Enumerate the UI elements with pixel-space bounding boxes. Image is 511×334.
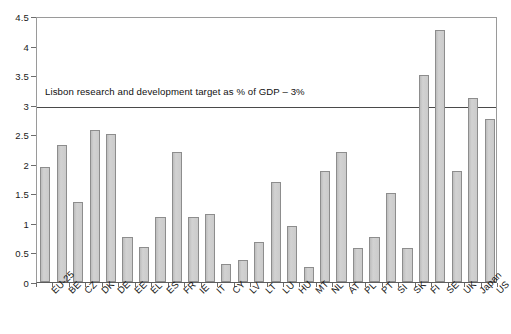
y-axis-tick-label: 4.5 <box>15 12 29 23</box>
y-axis: 00.511.522.533.544.5 <box>0 0 36 300</box>
bar <box>139 247 149 282</box>
y-axis-tick-label: 2 <box>24 159 29 170</box>
y-axis-tick-label: 3 <box>24 100 29 111</box>
bar <box>90 130 100 283</box>
bar <box>40 167 50 282</box>
bar <box>419 75 429 282</box>
bar <box>155 217 165 282</box>
bar <box>369 237 379 282</box>
bar <box>402 248 412 282</box>
bar <box>106 134 116 282</box>
bar <box>435 30 445 282</box>
bar <box>271 182 281 282</box>
bar <box>485 119 495 282</box>
bar <box>386 193 396 282</box>
y-axis-tick-label: 3.5 <box>15 71 29 82</box>
y-axis-tick-label: 1.5 <box>15 189 29 200</box>
y-axis-tick-label: 4 <box>24 41 29 52</box>
bar <box>468 98 478 282</box>
bar <box>254 242 264 282</box>
y-axis-tick-label: 2.5 <box>15 130 29 141</box>
bar <box>320 171 330 282</box>
bar <box>336 152 346 282</box>
bars-layer <box>37 18 496 282</box>
y-axis-tick-label: 0 <box>24 278 29 289</box>
y-axis-tick-label: 1 <box>24 218 29 229</box>
bar <box>452 171 462 282</box>
x-axis: EU-25BECZDKDEEEELESFRIEITCYLVLTLUHUMTNLA… <box>36 288 497 334</box>
bar <box>122 237 132 283</box>
bar <box>172 152 182 282</box>
bar <box>188 217 198 282</box>
x-axis-tick-mark <box>36 283 37 287</box>
plot-area: Lisbon research and development target a… <box>36 17 497 283</box>
y-axis-tick-label: 0.5 <box>15 248 29 259</box>
bar <box>57 145 67 282</box>
bar <box>221 264 231 282</box>
bar <box>287 226 297 282</box>
bar <box>205 214 215 282</box>
bar <box>353 248 363 282</box>
bar <box>73 202 83 282</box>
